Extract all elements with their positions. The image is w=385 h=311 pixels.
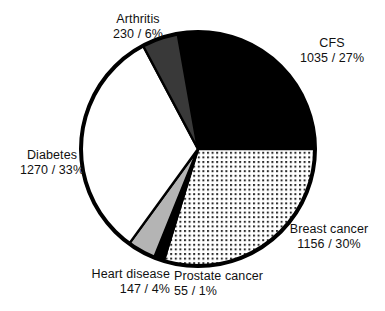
slice-label-breast-cancer-value: 1156 / 30% — [275, 237, 383, 252]
pie-chart: Arthritis 230 / 6% CFS 1035 / 27% Diabet… — [0, 0, 385, 311]
slice-label-prostate-cancer-value: 55 / 1% — [174, 284, 284, 299]
slice-label-diabetes-value: 1270 / 33% — [4, 163, 100, 178]
slice-label-breast-cancer-name: Breast cancer — [275, 222, 383, 237]
slice-label-heart-disease-value: 147 / 4% — [58, 282, 170, 297]
slice-label-diabetes: Diabetes 1270 / 33% — [4, 148, 100, 178]
slice-label-arthritis-name: Arthritis — [86, 12, 190, 27]
slice-label-cfs: CFS 1035 / 27% — [282, 36, 382, 66]
slice-label-prostate-cancer: Prostate cancer 55 / 1% — [174, 269, 284, 299]
slice-label-arthritis-value: 230 / 6% — [86, 27, 190, 42]
slice-label-arthritis: Arthritis 230 / 6% — [86, 12, 190, 42]
slice-label-prostate-cancer-name: Prostate cancer — [174, 269, 284, 284]
slice-label-heart-disease: Heart disease 147 / 4% — [58, 267, 170, 297]
slice-label-diabetes-name: Diabetes — [4, 148, 100, 163]
slice-label-cfs-name: CFS — [282, 36, 382, 51]
slice-label-breast-cancer: Breast cancer 1156 / 30% — [275, 222, 383, 252]
slice-label-heart-disease-name: Heart disease — [58, 267, 170, 282]
slice-label-cfs-value: 1035 / 27% — [282, 51, 382, 66]
